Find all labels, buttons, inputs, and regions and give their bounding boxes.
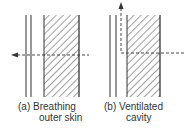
insulated-wall-hatched [44,15,79,97]
arrowhead-up-icon [119,2,124,9]
caption-a-line1: Breathing [33,101,76,112]
caption-b-line1: Ventilated [119,101,163,112]
caption-a-label: (a) [18,101,30,112]
arrowhead-left-icon [11,53,18,58]
caption-b-line2: cavity [104,112,163,123]
caption-b-label: (b) [104,101,116,112]
caption-a: (a) Breathing outer skin [18,101,82,123]
insulated-wall-hatched [127,15,160,97]
caption-a-line2: outer skin [18,112,82,123]
figure-a-breathing-outer-skin [11,15,89,97]
figure-b-ventilated-cavity [110,2,184,97]
caption-b: (b) Ventilated cavity [104,101,163,123]
